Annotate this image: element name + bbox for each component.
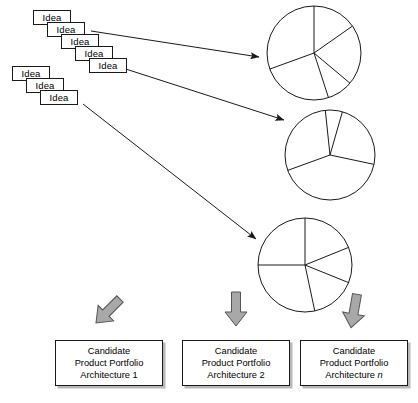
ideas-to-pie-3 — [83, 104, 256, 239]
diagram-canvas: IdeaIdeaIdeaIdeaIdeaIdeaIdeaIdea Candida… — [0, 0, 418, 403]
architecture-index-label: 2 — [260, 370, 265, 380]
architecture-box-n: CandidateProduct PortfolioArchitecture n — [300, 340, 408, 386]
ideas-to-pie-1 — [91, 31, 259, 57]
architecture-box-line-1: Candidate — [215, 345, 257, 357]
candidate-architecture-pie-3 — [258, 218, 352, 312]
architecture-box-line-2: Product Portfolio — [320, 357, 389, 369]
ideas-to-pie-2 — [104, 62, 284, 120]
architecture-box-1: CandidateProduct PortfolioArchitecture 1 — [55, 340, 163, 386]
idea-card: Idea — [89, 58, 127, 73]
architecture-box-line-2: Product Portfolio — [202, 357, 271, 369]
architecture-box-line-3: Architecture 2 — [207, 369, 264, 381]
architecture-index-label: 1 — [133, 370, 138, 380]
block-arrow-to-architecture-2 — [225, 292, 247, 326]
architecture-box-line-1: Candidate — [88, 345, 130, 357]
idea-card: Idea — [40, 90, 78, 105]
block-arrow-to-architecture-n — [340, 292, 368, 329]
architecture-label-prefix: Architecture — [325, 370, 377, 380]
architecture-box-line-2: Product Portfolio — [75, 357, 144, 369]
architecture-box-line-3: Architecture 1 — [80, 369, 137, 381]
architecture-box-line-3: Architecture n — [325, 369, 382, 381]
architecture-box-line-1: Candidate — [333, 345, 375, 357]
pie-charts-group — [258, 6, 375, 312]
block-arrow-to-architecture-1 — [88, 291, 128, 331]
candidate-architecture-pie-2 — [285, 110, 375, 200]
architecture-label-prefix: Architecture — [80, 370, 132, 380]
candidate-architecture-pie-1 — [267, 6, 361, 100]
architecture-label-prefix: Architecture — [207, 370, 259, 380]
architecture-box-2: CandidateProduct PortfolioArchitecture 2 — [182, 340, 290, 386]
architecture-index-label: n — [378, 370, 383, 380]
